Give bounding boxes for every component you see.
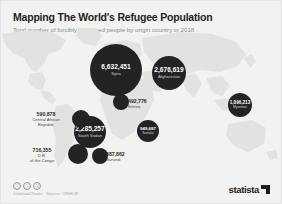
bubble-myanmar[interactable]: 1,096,213 Myanmar bbox=[228, 93, 252, 117]
statista-mark-icon bbox=[261, 185, 270, 194]
bubble-dr-congo[interactable] bbox=[68, 144, 88, 164]
statista-wordmark: statista bbox=[229, 184, 259, 195]
bubble-value: 6,632,451 bbox=[101, 64, 130, 71]
nd-icon: ⓓ bbox=[33, 182, 41, 190]
bubble-country: Afghanistan bbox=[158, 75, 180, 79]
bubble-central-african-republic[interactable] bbox=[72, 110, 90, 128]
bubble-afghanistan[interactable]: 2,676,619 Afghanistan bbox=[152, 56, 186, 90]
bubble-eritrea[interactable] bbox=[113, 94, 129, 110]
source-credit: Source: UNHCR bbox=[46, 191, 78, 196]
label-eritrea: 492,776 Eritrea bbox=[128, 99, 168, 110]
footer: ⓒ ⓘ ⓓ #statistaCharts bbox=[13, 182, 42, 197]
statista-logo: statista bbox=[229, 184, 270, 195]
bubble-value: 2,676,619 bbox=[154, 67, 183, 74]
bubble-country: Syria bbox=[111, 72, 121, 76]
bubble-somalia[interactable]: 949,687 Somalia bbox=[137, 120, 159, 142]
label-dr-congo: 716,355 D.R. of the Congo bbox=[20, 148, 64, 164]
label-burundi: 387,862 Burundi bbox=[106, 152, 142, 163]
bubble-country: South Sudan bbox=[78, 134, 102, 138]
cc-icon: ⓒ bbox=[13, 182, 21, 190]
infographic-root: Mapping The World's Refugee Population T… bbox=[0, 0, 282, 204]
statista-charts-hashtag: #statistaCharts bbox=[13, 191, 42, 196]
by-icon: ⓘ bbox=[23, 182, 31, 190]
label-country: D.R. of the Congo bbox=[20, 154, 64, 164]
bubble-country: Somalia bbox=[142, 132, 154, 135]
bubble-layer: 6,632,451 Syria 2,676,619 Afghanistan 2,… bbox=[0, 0, 282, 204]
bubble-country: Myanmar bbox=[233, 106, 247, 110]
bubble-syria[interactable]: 6,632,451 Syria bbox=[90, 44, 142, 96]
label-country: Central African Republic bbox=[22, 118, 70, 128]
creative-commons-icons: ⓒ ⓘ ⓓ bbox=[13, 182, 42, 190]
label-country: Burundi bbox=[106, 158, 142, 163]
label-country: Eritrea bbox=[128, 105, 168, 110]
label-central-african-republic: 590,878 Central African Republic bbox=[22, 112, 70, 128]
